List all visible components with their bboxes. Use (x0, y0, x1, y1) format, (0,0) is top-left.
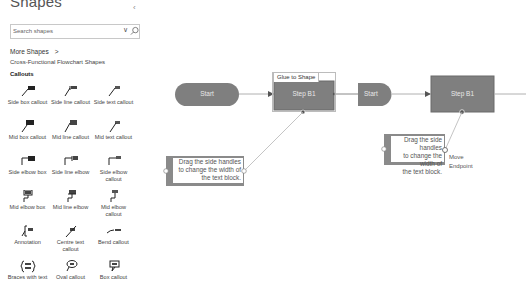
side-elbow-callout-icon (104, 155, 124, 168)
left-callout-resize-handle-right (242, 169, 247, 174)
mid-box-callout-icon (18, 120, 38, 133)
centre-text-callout-icon (61, 225, 81, 238)
drawing-canvas[interactable]: Start Step B1 Glue to Shape Drag the sid… (146, 0, 526, 301)
left-start-label: Start (175, 90, 239, 97)
shape-mid-line-elbow[interactable]: Mid line elbow (49, 188, 92, 223)
diagram-svg (146, 0, 526, 301)
more-shapes-link[interactable]: More Shapes> (10, 48, 58, 55)
shape-side-line-elbow[interactable]: Side line elbow (49, 153, 92, 188)
annotation-icon (18, 225, 38, 238)
oval-callout-icon (61, 260, 81, 273)
side-text-callout-icon (104, 85, 124, 98)
right-callout-leader-line[interactable] (445, 112, 462, 150)
mid-elbow-box-icon (18, 190, 38, 203)
shape-mid-elbow-callout[interactable]: Mid elbow callout (92, 188, 135, 223)
shape-side-text-callout[interactable]: Side text callout (92, 83, 135, 118)
right-step-label: Step B1 (431, 90, 494, 97)
mid-elbow-callout-icon (104, 190, 124, 203)
stencil-callouts-title[interactable]: Callouts (10, 71, 34, 77)
shape-centre-text-callout[interactable]: Centre text callout (49, 223, 92, 258)
right-callout-resize-handle-left (382, 147, 387, 152)
shape-braces-with-text[interactable]: Braces with text (6, 258, 49, 293)
side-line-elbow-icon (61, 155, 81, 168)
shape-mid-box-callout[interactable]: Mid box callout (6, 118, 49, 153)
right-callout-endpoint-handle (443, 148, 448, 153)
shapes-pane: Shapes ‹ ∨ More Shapes> Cross-Functional… (0, 0, 146, 301)
box-callout-icon (104, 260, 124, 273)
shape-mid-text-callout[interactable]: Mid text callout (92, 118, 135, 153)
left-callout-leader-line[interactable] (244, 112, 303, 171)
side-elbow-box-icon (18, 155, 38, 168)
search-shapes-input[interactable] (13, 25, 113, 38)
shape-side-elbow-box[interactable]: Side elbow box (6, 153, 49, 188)
shape-mid-elbow-box[interactable]: Mid elbow box (6, 188, 49, 223)
right-callout-text[interactable]: Drag the side handles to change the widt… (391, 136, 442, 176)
shape-side-elbow-callout[interactable]: Side elbow callout (92, 153, 135, 188)
shape-mid-line-callout[interactable]: Mid line callout (49, 118, 92, 153)
left-step-label: Step B1 (274, 90, 334, 97)
mid-line-callout-icon (61, 120, 81, 133)
right-start-label: Start (358, 90, 392, 97)
left-callout-resize-handle-left (164, 169, 169, 174)
left-callout-text[interactable]: Drag the side handles to change the widt… (173, 158, 241, 182)
glue-to-shape-tooltip: Glue to Shape (273, 72, 319, 82)
shape-side-line-callout[interactable]: Side line callout (49, 83, 92, 118)
shape-oval-callout[interactable]: Oval callout (49, 258, 92, 293)
shape-box-callout[interactable]: Box callout (92, 258, 135, 293)
shape-bend-callout[interactable]: Bend callout (92, 223, 135, 258)
search-shapes-box: ∨ (10, 24, 140, 39)
mid-line-elbow-icon (61, 190, 81, 203)
braces-with-text-icon (18, 260, 38, 273)
collapse-pane-icon[interactable]: ‹ (133, 3, 136, 12)
bend-callout-icon (104, 225, 124, 238)
move-endpoint-tooltip: Move Endpoint (449, 153, 473, 171)
search-icon[interactable] (130, 26, 139, 36)
shape-side-box-callout[interactable]: Side box callout (6, 83, 49, 118)
mid-text-callout-icon (104, 120, 124, 133)
shape-annotation[interactable]: Annotation (6, 223, 49, 258)
search-options-chevron-icon[interactable]: ∨ (123, 26, 128, 34)
side-line-callout-icon (61, 85, 81, 98)
stencil-cross-functional[interactable]: Cross-Functional Flowchart Shapes (10, 59, 105, 65)
chevron-right-icon: > (55, 48, 59, 55)
more-shapes-label: More Shapes (10, 48, 49, 55)
callout-shapes-grid: Side box callout Side line callout Side … (6, 83, 144, 293)
shapes-pane-title: Shapes (10, 0, 62, 10)
side-box-callout-icon (18, 85, 38, 98)
